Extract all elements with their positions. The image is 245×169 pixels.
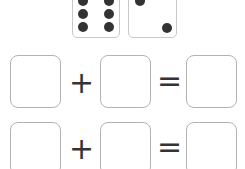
die-dot	[78, 22, 88, 32]
die-six	[72, 0, 120, 38]
addend-2-box[interactable]	[100, 122, 151, 169]
die-dot	[135, 0, 145, 6]
equals-sign: =	[157, 132, 181, 162]
die-dot	[78, 0, 88, 6]
die-dot	[104, 0, 114, 6]
die-dot	[104, 22, 114, 32]
die-two	[128, 0, 177, 38]
equals-sign: =	[157, 66, 181, 96]
plus-sign: +	[69, 134, 93, 164]
die-dot	[162, 23, 172, 33]
die-dot	[104, 9, 114, 19]
addend-1-box[interactable]	[10, 122, 61, 169]
addend-2-box[interactable]	[100, 55, 151, 108]
sum-box[interactable]	[186, 122, 237, 169]
plus-sign: +	[69, 68, 93, 98]
addend-1-box[interactable]	[10, 55, 61, 108]
sum-box[interactable]	[186, 55, 237, 108]
die-dot	[78, 9, 88, 19]
